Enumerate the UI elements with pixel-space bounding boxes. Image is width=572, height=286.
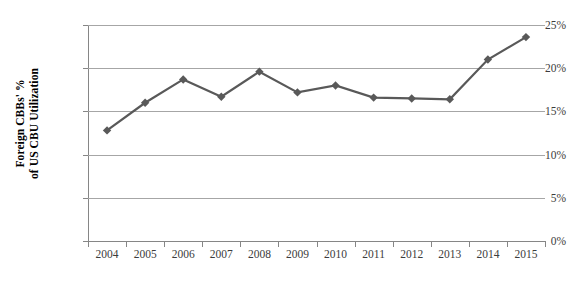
x-tick-label: 2007 xyxy=(210,248,233,260)
x-tick-label: 2006 xyxy=(172,248,195,260)
x-tick-mark xyxy=(126,241,127,247)
x-tick-label: 2004 xyxy=(96,248,119,260)
x-tick-mark xyxy=(278,241,279,247)
x-tick-label: 2008 xyxy=(248,248,271,260)
x-tick-label: 2014 xyxy=(476,248,499,260)
x-tick-mark xyxy=(202,241,203,247)
y-axis-title: Foreign CBBs' % of US CBU Utilization xyxy=(0,0,56,246)
x-tick-label: 2009 xyxy=(286,248,309,260)
x-tick-mark xyxy=(164,241,165,247)
x-tick-mark xyxy=(545,241,546,247)
x-tick-label: 2005 xyxy=(134,248,157,260)
x-tick-label: 2012 xyxy=(400,248,423,260)
x-tick-mark xyxy=(431,241,432,247)
x-tick-mark xyxy=(507,241,508,247)
gridline xyxy=(88,68,545,69)
plot-area xyxy=(88,25,545,241)
x-tick-mark xyxy=(393,241,394,247)
line-chart: Foreign CBBs' % of US CBU Utilization 0%… xyxy=(0,0,572,286)
x-tick-label: 2015 xyxy=(514,248,537,260)
x-tick-label: 2013 xyxy=(438,248,461,260)
x-tick-label: 2011 xyxy=(362,248,385,260)
x-tick-mark xyxy=(88,241,89,247)
y-axis-title-line-1: Foreign CBBs' % xyxy=(15,67,29,178)
x-tick-mark xyxy=(317,241,318,247)
x-tick-mark xyxy=(240,241,241,247)
gridline xyxy=(88,155,545,156)
x-tick-mark xyxy=(355,241,356,247)
x-tick-mark xyxy=(469,241,470,247)
gridline xyxy=(88,25,545,26)
y-axis-title-line-2: of US CBU Utilization xyxy=(28,67,42,178)
gridline xyxy=(88,198,545,199)
x-tick-label: 2010 xyxy=(324,248,347,260)
gridline xyxy=(88,111,545,112)
